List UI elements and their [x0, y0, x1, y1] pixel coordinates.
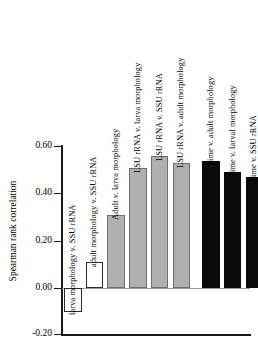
bar-8	[246, 177, 258, 288]
category-label-4: LSU rRNA v. SSU rRNA	[155, 73, 164, 161]
x-axis-baseline	[61, 334, 251, 336]
category-label-1: adult morphology v. SSU rRNA	[89, 157, 98, 267]
bar-7	[224, 172, 242, 288]
category-label-7: Time v. larval morphology	[228, 85, 237, 177]
bar-6	[202, 161, 220, 288]
bar-5	[173, 163, 191, 288]
category-label-2: Adult v. larva morphology	[111, 129, 120, 220]
bar-3	[129, 168, 147, 288]
bar-4	[151, 156, 169, 288]
category-label-5: LSU rRNA v. adult morphology	[176, 57, 185, 167]
category-label-3: LSU rRNA v. larva morphology	[133, 62, 142, 172]
category-label-6: Time v. adult morphology	[206, 76, 215, 166]
bar-2	[107, 215, 125, 288]
bars-layer: larva morphology v. SSU rRNAadult morpho…	[0, 0, 258, 351]
category-label-8: Time v. SSU rRNA	[249, 115, 258, 182]
category-label-0: larva morphology v. SSU rRNA	[68, 205, 77, 315]
spearman-rank-correlation-bar-chart: Spearman rank correlation 0.60 0.40 0.20…	[0, 0, 258, 351]
